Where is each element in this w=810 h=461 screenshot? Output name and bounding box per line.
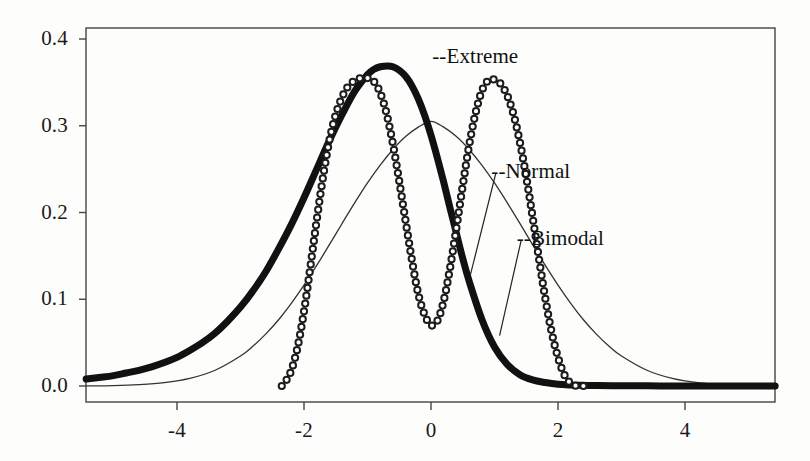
y-tick-label: 0.2 xyxy=(0,200,68,225)
series-label-bimodal: --Bimodal xyxy=(517,226,604,251)
series-extreme-curve xyxy=(86,66,775,386)
axes-frame xyxy=(86,28,775,402)
y-tick-label: 0.0 xyxy=(0,373,68,398)
x-tick-label: 2 xyxy=(528,418,588,443)
series-label-extreme: --Extreme xyxy=(432,44,518,69)
y-tick-label: 0.4 xyxy=(0,26,68,51)
series-normal-curve xyxy=(86,121,775,385)
y-tick-label: 0.1 xyxy=(0,286,68,311)
figure-container: 0.00.10.20.30.4 -4-2024 --Extreme --Norm… xyxy=(0,0,810,461)
chart-plot-area xyxy=(0,0,810,461)
x-tick-label: -2 xyxy=(274,418,334,443)
series-label-normal: --Normal xyxy=(491,159,570,184)
x-tick-label: -4 xyxy=(147,418,207,443)
y-tick-label: 0.3 xyxy=(0,113,68,138)
x-tick-label: 4 xyxy=(655,418,715,443)
x-tick-label: 0 xyxy=(401,418,461,443)
